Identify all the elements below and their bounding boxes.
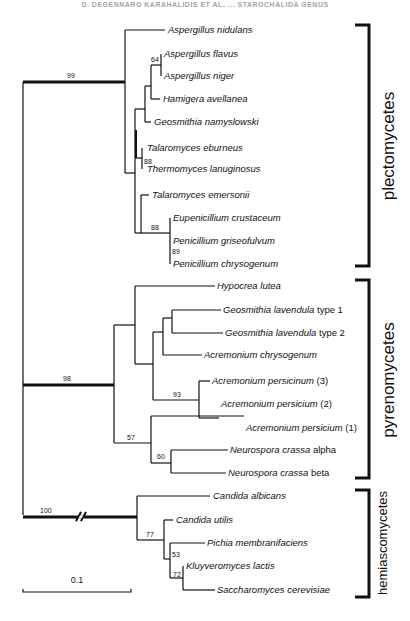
leaf-label: Geosmithia lavendula type 1 (223, 304, 343, 315)
leaf-label: Eupenicillium crustaceum (173, 212, 281, 223)
bootstrap-72: 72 (173, 571, 181, 578)
leaf-label: Talaromyces eburneus (147, 142, 243, 153)
group-brackets: plectomycetes pyrenomycetes hemiascomyce… (355, 25, 398, 597)
bootstrap-99: 99 (67, 72, 75, 79)
bootstrap-57: 57 (127, 434, 135, 441)
leaf-label: Neurospora crassa beta (228, 467, 330, 478)
bootstrap-53: 53 (172, 551, 180, 558)
leaf-label: Hamigera avellanea (163, 93, 248, 104)
leaf-label: Hypocrea lutea (217, 280, 281, 291)
scale-bar: 0.1 (23, 575, 131, 592)
leaf-label: Penicillium chrysogenum (173, 258, 278, 269)
leaf-label: Geosmithia namyslowski (154, 116, 259, 127)
bootstrap-100: 100 (40, 507, 52, 514)
phylogenetic-tree: Aspergillus nidulans Aspergillus flavus … (0, 0, 410, 621)
leaf-label: Acremonium persicinum (3) (211, 375, 328, 386)
bootstrap-98: 98 (63, 375, 71, 382)
leaf-label: Candida utilis (176, 514, 233, 525)
leaf-label: Acremonium persicium (1) (245, 422, 357, 433)
leaf-label: Kluyveromyces lactis (186, 560, 275, 571)
group-label-pyrenomycetes: pyrenomycetes (379, 322, 398, 437)
bootstrap-64: 64 (151, 56, 159, 63)
bootstrap-89: 89 (172, 248, 180, 255)
leaf-label: Acremonium persicium (2) (220, 398, 332, 409)
group-label-plectomycetes: plectomycetes (379, 92, 398, 201)
leaf-label: Penicillium griseofulvum (173, 235, 275, 246)
leaf-label: Geosmithia lavendula type 2 (225, 327, 345, 338)
bootstrap-77: 77 (146, 531, 154, 538)
leaf-label: Candida albicans (213, 490, 286, 501)
group-label-hemiascomycetes: hemiascomycetes (375, 490, 390, 595)
scale-bar-label: 0.1 (71, 575, 84, 585)
leaf-label: Aspergillus nidulans (167, 24, 253, 35)
leaf-label: Pichia membranifaciens (207, 537, 308, 548)
leaf-label: Aspergillus niger (163, 70, 235, 81)
leaf-label: Talaromyces emersonii (152, 189, 250, 200)
root-branches (23, 82, 137, 521)
leaf-label: Aspergillus flavus (163, 48, 238, 59)
leaf-label: Thermomyces lanuginosus (147, 163, 261, 174)
leaf-label: Neurospora crassa alpha (230, 444, 337, 455)
bootstrap-93: 93 (173, 391, 181, 398)
leaf-label: Acremonium chrysogenum (203, 349, 317, 360)
bootstrap-88a: 88 (144, 158, 152, 165)
bootstrap-values: 99 98 100 64 88 88 89 93 57 60 77 53 72 (40, 56, 181, 578)
bootstrap-60: 60 (157, 453, 165, 460)
bootstrap-88b: 88 (151, 224, 159, 231)
leaf-label: Saccharomyces cerevisiae (217, 584, 330, 595)
